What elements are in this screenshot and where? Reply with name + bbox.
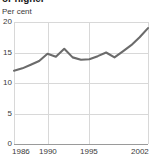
x-axis-tick-label: 2002 — [131, 147, 149, 156]
y-axis-tick-label: 10 — [0, 79, 12, 87]
y-axis-tick-label: 20 — [0, 18, 12, 26]
gridline-vertical — [148, 22, 149, 144]
series-line-chart — [14, 22, 148, 144]
y-axis-unit-label: Per cent — [2, 7, 32, 16]
x-axis-tick-label: 1986 — [12, 147, 30, 156]
x-axis-line — [14, 144, 148, 145]
y-axis-tick-label: 15 — [0, 49, 12, 57]
series-line-path — [14, 28, 148, 71]
plot-area — [14, 22, 148, 144]
x-axis-tick-label: 1995 — [80, 147, 98, 156]
y-axis-tick-label: 5 — [0, 110, 12, 118]
chart-title: or higher — [2, 0, 159, 5]
chart-screenshot: or higher Per cent 20151050 198619901995… — [0, 0, 161, 162]
x-axis-tick-label: 1990 — [39, 147, 57, 156]
y-axis-tick-label: 0 — [0, 140, 12, 148]
